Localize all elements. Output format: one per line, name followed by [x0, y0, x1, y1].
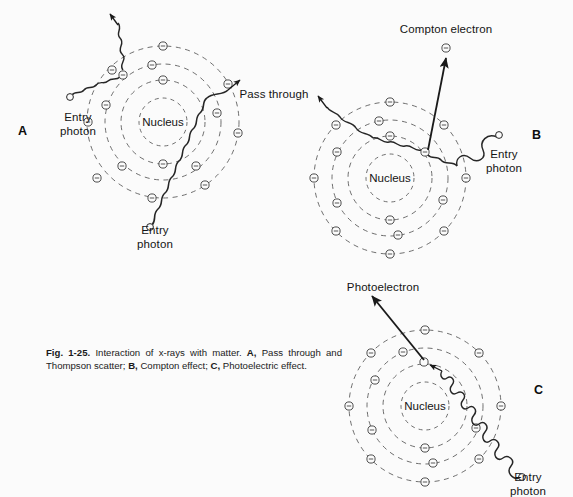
electron [394, 231, 402, 239]
electron [462, 174, 470, 182]
label-entry-photon-a-left: Entry photon [40, 111, 116, 138]
figure-caption: Fig. 1-25. Interaction of x-rays with ma… [46, 347, 342, 372]
electron [440, 227, 448, 235]
electron [429, 459, 437, 467]
electron [159, 42, 167, 50]
label-entry-photon-b: Entry photon [466, 148, 542, 175]
figure-number: Fig. 1-25. [46, 347, 90, 358]
absorption-arrow-c [430, 365, 442, 371]
caption-letter-c: C, [211, 360, 221, 371]
electron [234, 129, 242, 137]
nucleus-label-c: Nucleus [404, 400, 446, 412]
electron [475, 455, 483, 463]
electron [310, 174, 318, 182]
xray-interaction-diagram: Nucleus [0, 0, 573, 497]
caption-intro: Interaction of x-rays with matter. [90, 347, 247, 358]
electron [371, 376, 379, 384]
electron [368, 426, 376, 434]
label-photoelectron: Photoelectron [330, 281, 436, 295]
label-compton-electron: Compton electron [382, 23, 510, 37]
compton-electron-arrow [428, 58, 446, 150]
electron [439, 196, 447, 204]
electron [440, 121, 448, 129]
photon-wave-scattered-b [373, 138, 421, 151]
electron [386, 132, 394, 140]
electron [213, 109, 221, 117]
electron [475, 349, 483, 357]
electron [497, 402, 505, 410]
electron [201, 181, 209, 189]
electron [192, 162, 200, 170]
figure-page: Nucleus [0, 0, 573, 497]
label-entry-photon-a-bottom: Entry photon [117, 224, 193, 251]
label-entry-photon-c: Entry photon [490, 471, 566, 497]
electron [93, 174, 101, 182]
caption-text-b: Compton effect; [138, 360, 211, 371]
electron [367, 455, 375, 463]
electron [159, 76, 167, 84]
electron [421, 444, 429, 452]
caption-letter-b: B, [128, 360, 138, 371]
photon-wave-scattered-a [118, 23, 124, 70]
electron [421, 326, 429, 334]
electron [148, 194, 156, 202]
panel-letter-c: C [534, 383, 543, 397]
photon-wave-incoming-b2 [428, 155, 457, 166]
photon-origin-a [67, 94, 74, 101]
photon-origin-b [496, 132, 503, 139]
electron [102, 101, 110, 109]
electron [421, 478, 429, 486]
electron [386, 216, 394, 224]
electron [332, 121, 340, 129]
panel-letter-b: B [532, 128, 541, 142]
compton-electron [442, 44, 450, 52]
electron [159, 160, 167, 168]
electron [367, 349, 375, 357]
photoelectron-arrow [372, 296, 424, 360]
electron [333, 199, 341, 207]
electron [386, 98, 394, 106]
scatter-arrow-b [318, 96, 327, 108]
electron-scatter-site-a [119, 71, 127, 79]
caption-text-c: Photoelectric effect. [220, 360, 307, 371]
nucleus-label-a: Nucleus [142, 116, 184, 128]
electron [118, 162, 126, 170]
electron [386, 250, 394, 258]
panel-letter-a: A [18, 124, 27, 138]
electron [333, 148, 341, 156]
electron [399, 348, 407, 356]
scatter-arrow-a [110, 14, 118, 25]
label-pass-through-a: Pass through [231, 88, 317, 102]
caption-letter-a: A, [247, 347, 257, 358]
electron [345, 402, 353, 410]
photon-wave-exit-a [207, 90, 228, 98]
panel-c-atom: Nucleus [345, 296, 525, 486]
electron [108, 66, 116, 74]
electron [332, 227, 340, 235]
electron [148, 61, 156, 69]
nucleus-label-b: Nucleus [369, 172, 411, 184]
electron [375, 117, 383, 125]
